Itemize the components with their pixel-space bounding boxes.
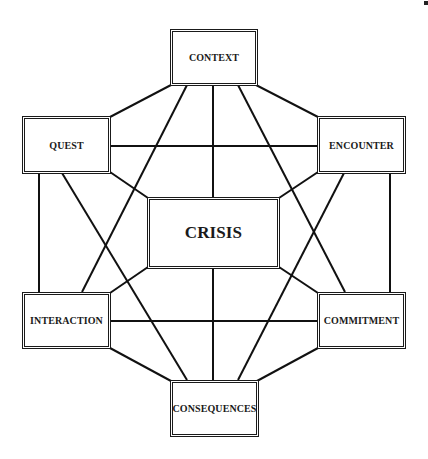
edge-interaction-consequences xyxy=(110,348,171,381)
edge-context-encounter xyxy=(256,85,318,117)
node-consequences: CONSEQUENCES xyxy=(170,380,259,437)
node-label-commitment: COMMITMENT xyxy=(324,315,399,326)
node-context: CONTEXT xyxy=(170,29,258,86)
node-crisis: CRISIS xyxy=(147,197,280,269)
node-label-crisis: CRISIS xyxy=(185,223,242,243)
edge-commitment-consequences xyxy=(257,348,318,381)
node-label-interaction: INTERACTION xyxy=(30,315,103,326)
node-interaction: INTERACTION xyxy=(22,292,111,349)
node-label-consequences: CONSEQUENCES xyxy=(173,403,257,414)
node-quest: QUEST xyxy=(22,116,111,174)
node-label-encounter: ENCOUNTER xyxy=(329,140,394,151)
scan-mark xyxy=(424,1,428,5)
node-label-quest: QUEST xyxy=(49,140,83,151)
edge-context-quest xyxy=(110,85,171,117)
edge-quest-crisis xyxy=(110,172,148,198)
node-label-context: CONTEXT xyxy=(189,52,239,63)
edge-crisis-interaction xyxy=(110,267,148,293)
node-commitment: COMMITMENT xyxy=(317,292,406,349)
node-encounter: ENCOUNTER xyxy=(317,116,406,174)
